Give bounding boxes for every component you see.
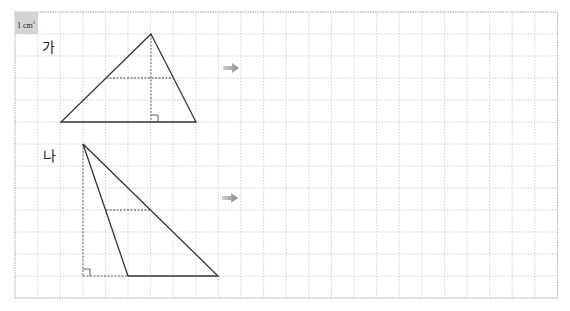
grid-worksheet: 1 cm2 가 나 [0,0,570,311]
right-arrow-icon [223,63,239,73]
unit-area-label: 1 cm2 [15,12,38,34]
unit-value: 1 cm [17,21,33,30]
unit-superscript: 2 [33,20,36,25]
grid-paper [0,0,570,311]
right-angle-mark [83,269,90,276]
shape-label-na: 나 [43,149,56,163]
right-arrow-icon [222,193,238,203]
shape-label-ga: 가 [42,40,55,54]
right-angle-mark [151,115,158,122]
